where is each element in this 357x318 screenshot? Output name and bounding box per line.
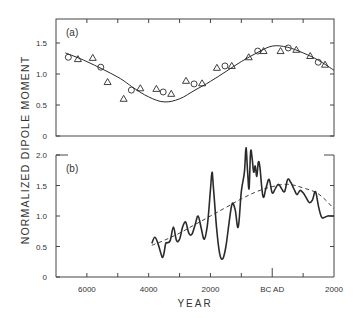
y-tick-label: 1.0 xyxy=(36,70,48,79)
y-tick-label: 0 xyxy=(43,132,48,141)
panel-a: 00.51.01.5 (a) xyxy=(36,19,334,141)
panel-b: 00.51.01.52.0 (b) xyxy=(36,148,334,282)
triangle-marker xyxy=(153,85,160,91)
y-tick-label: 2.0 xyxy=(36,151,48,160)
panel-b-x-ticks xyxy=(87,268,303,277)
y-tick-label: 1.0 xyxy=(36,212,48,221)
x-tick-label: 6000 xyxy=(78,285,96,294)
x-tick-label: 2000 xyxy=(202,285,220,294)
x-axis-tick-labels: 600040002000BC AD2000 xyxy=(78,285,343,294)
panel-a-y-ticks: 00.51.01.5 xyxy=(36,39,334,141)
x-tick-label: 2000 xyxy=(325,285,343,294)
circle-marker xyxy=(160,89,166,95)
triangle-marker xyxy=(120,95,127,101)
panel-a-frame xyxy=(56,19,334,136)
panel-b-frame xyxy=(56,155,334,277)
triangle-marker xyxy=(213,64,220,70)
triangle-marker xyxy=(137,85,144,91)
dipole-solid-line xyxy=(152,148,334,260)
y-tick-label: 0.5 xyxy=(36,101,48,110)
x-tick-label: BC AD xyxy=(260,285,284,294)
triangle-marker xyxy=(104,79,111,85)
circle-marker xyxy=(191,81,197,87)
fitted-curve xyxy=(65,46,334,102)
y-axis-label: NORMALIZED DIPOLE MOMENT xyxy=(19,56,31,245)
x-axis-label: YEAR xyxy=(177,298,212,309)
y-tick-label: 1.5 xyxy=(36,182,48,191)
triangle-marker xyxy=(183,77,190,83)
y-tick-label: 1.5 xyxy=(36,39,48,48)
panel-a-plot xyxy=(65,45,334,102)
panel-b-y-ticks: 00.51.01.52.0 xyxy=(36,151,334,282)
panel-a-x-ticks xyxy=(87,19,303,23)
x-tick-label: 4000 xyxy=(140,285,158,294)
dipole-moment-figure: NORMALIZED DIPOLE MOMENT 00.51.01.5 (a) … xyxy=(0,0,357,318)
triangle-marker xyxy=(277,48,284,54)
trend-dashed-line xyxy=(152,184,334,245)
panel-b-plot xyxy=(152,148,334,260)
triangle-marker xyxy=(89,54,96,60)
panel-b-label: (b) xyxy=(66,163,78,174)
circle-marker xyxy=(222,63,228,69)
y-tick-label: 0 xyxy=(43,273,48,282)
y-tick-label: 0.5 xyxy=(36,243,48,252)
triangle-marker xyxy=(168,90,175,96)
panel-a-label: (a) xyxy=(66,27,78,38)
